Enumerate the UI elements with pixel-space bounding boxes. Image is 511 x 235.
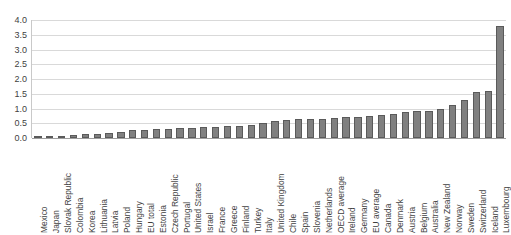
x-tick-label: Belgium	[420, 203, 428, 233]
x-tick-label: Hungary	[135, 201, 143, 233]
bar	[188, 128, 195, 138]
y-tick-label: 1.5	[14, 89, 27, 98]
x-tick-label: Slovenia	[313, 201, 321, 233]
bar	[224, 126, 231, 138]
x-tick-label: Greece	[230, 206, 238, 233]
bar	[413, 111, 420, 138]
x-tick-label: Austria	[408, 207, 416, 233]
x-tick-label: Luxembourg	[502, 186, 510, 233]
y-tick-label: 0.0	[14, 134, 27, 143]
y-tick-label: 4.0	[14, 16, 27, 25]
bar	[165, 129, 172, 138]
bar	[236, 126, 243, 138]
x-tick-label: Japan	[52, 210, 60, 233]
y-tick-label: 1.0	[14, 104, 27, 113]
bar	[129, 130, 136, 138]
bar	[425, 111, 432, 138]
x-tick-label: Czech Republic	[171, 174, 179, 233]
bar	[402, 112, 409, 138]
bar	[378, 115, 385, 138]
x-tick-label: Poland	[123, 207, 131, 233]
bar	[354, 117, 361, 138]
x-axis: MexicoJapanSlovak RepublicColombiaKoreaL…	[31, 140, 505, 235]
bar	[176, 128, 183, 138]
bars-group	[32, 20, 506, 138]
x-tick-label: Turkey	[254, 208, 262, 233]
x-tick-label: Sweden	[467, 203, 475, 233]
x-tick-label: Iceland	[491, 206, 499, 233]
bar	[307, 119, 314, 138]
x-tick-label: Slovak Republic	[64, 173, 72, 233]
y-tick-label: 2.0	[14, 75, 27, 84]
x-tick-label: Ireland	[348, 207, 356, 233]
bar	[259, 123, 266, 138]
x-tick-label: Germany	[360, 199, 368, 233]
x-tick-label: Chile	[289, 214, 297, 233]
x-tick-label: Lithuania	[100, 199, 108, 233]
bar	[319, 119, 326, 138]
bar	[212, 127, 219, 139]
x-tick-label: Netherlands	[325, 188, 333, 233]
x-tick-label: EU total	[147, 203, 155, 233]
x-tick-label: Finland	[242, 206, 250, 233]
y-tick-label: 3.0	[14, 45, 27, 54]
plot-area	[31, 20, 506, 138]
x-tick-label: Canada	[384, 204, 392, 233]
x-tick-label: United States	[194, 183, 202, 233]
x-tick-label: EU average	[372, 189, 380, 233]
y-tick-label: 2.5	[14, 60, 27, 69]
bar	[248, 125, 255, 138]
bar	[331, 118, 338, 138]
x-tick-label: Estonia	[159, 205, 167, 233]
x-tick-label: Norway	[455, 205, 463, 233]
bar	[390, 114, 397, 138]
y-tick-label: 3.5	[14, 30, 27, 39]
bar	[200, 127, 207, 138]
x-tick-label: Portugal	[183, 202, 191, 233]
bar	[271, 121, 278, 138]
x-tick-label: France	[218, 207, 226, 233]
x-axis-baseline	[32, 138, 506, 139]
x-tick-label: Denmark	[396, 199, 404, 233]
bar	[366, 116, 373, 138]
x-tick-label: United Kingdom	[277, 173, 285, 233]
x-tick-label: Australia	[431, 200, 439, 233]
bar	[437, 109, 444, 139]
bar	[461, 100, 468, 138]
bar	[153, 129, 160, 138]
x-tick-label: Colombia	[76, 198, 84, 233]
bar	[295, 119, 302, 138]
bar	[496, 26, 503, 138]
x-tick-label: Korea	[88, 211, 96, 233]
x-tick-label: Switzerland	[479, 190, 487, 233]
x-tick-label: Latvia	[111, 211, 119, 233]
y-axis: 4.03.53.02.52.01.51.00.50.0	[0, 0, 30, 145]
bar	[473, 92, 480, 138]
x-tick-label: OECD average	[337, 176, 345, 233]
bar	[141, 130, 148, 138]
bar	[485, 91, 492, 138]
bar	[449, 105, 456, 138]
bar	[283, 120, 290, 138]
bar	[342, 117, 349, 138]
y-tick-label: 0.5	[14, 119, 27, 128]
x-tick-label: Mexico	[40, 206, 48, 233]
x-tick-label: Israel	[206, 213, 214, 233]
x-tick-label: New Zealand	[443, 184, 451, 233]
x-tick-label: Spain	[301, 212, 309, 233]
x-tick-label: Italy	[265, 218, 273, 233]
